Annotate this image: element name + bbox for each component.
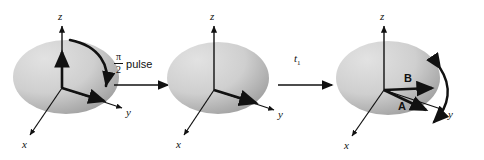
y-axis-label: y (447, 108, 453, 120)
vector-b-label: B (404, 72, 412, 84)
xy-plane-ellipse (13, 40, 119, 114)
z-axis-label: z (379, 10, 385, 22)
vector-a-label: A (398, 100, 406, 112)
panel-3: z y x B A (322, 0, 482, 160)
z-axis-label: z (209, 10, 215, 22)
x-axis-label: x (21, 138, 27, 150)
x-axis-label: x (343, 139, 349, 151)
x-axis-label: x (175, 138, 181, 150)
z-axis-label: z (57, 10, 63, 22)
nmr-vector-figure: z y x π 2 pulse (0, 0, 484, 160)
